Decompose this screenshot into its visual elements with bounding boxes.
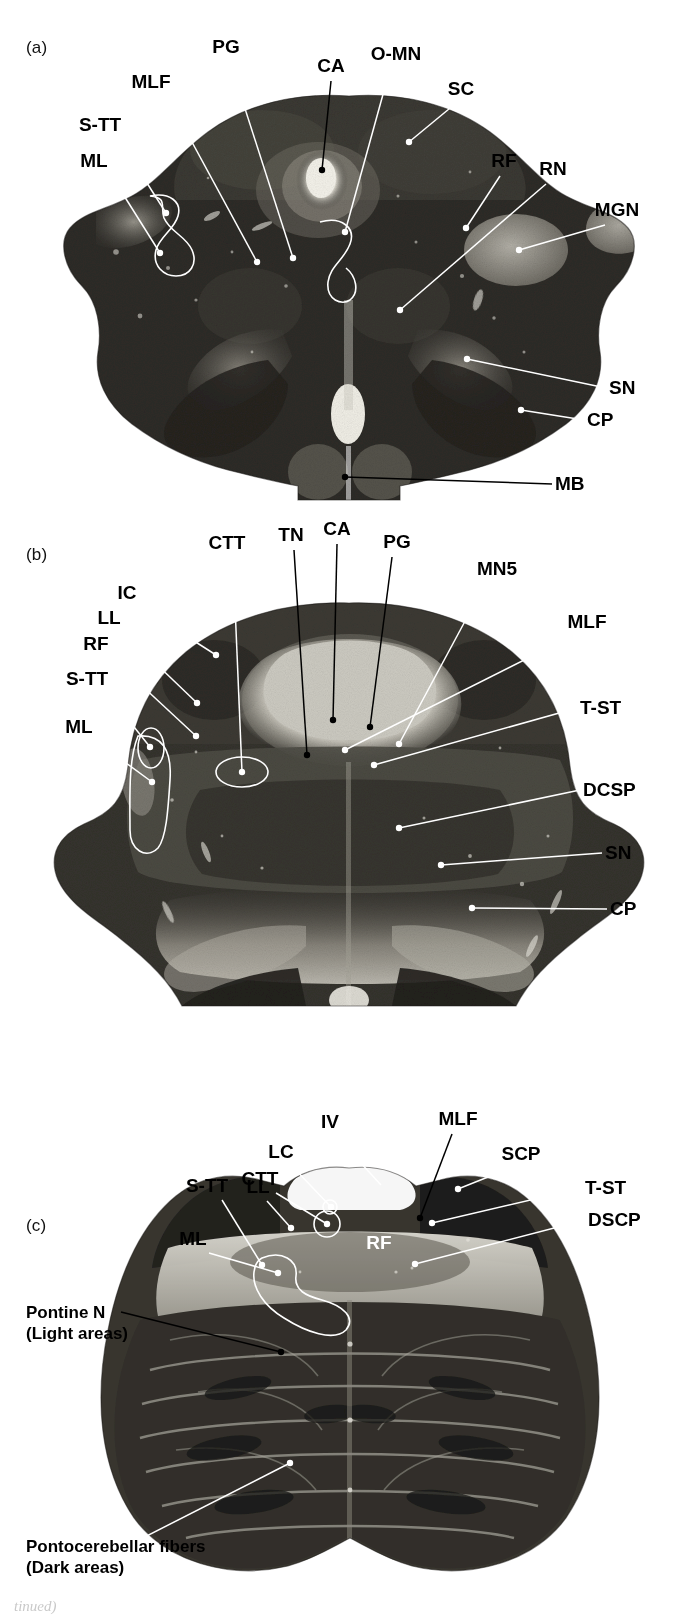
- leader-tip-ca: [319, 167, 325, 173]
- leader-line-ctt: [233, 558, 242, 772]
- leader-tip-s-tt: [147, 744, 153, 750]
- label-b-ca: CA: [323, 518, 351, 539]
- leader-tip-ca: [330, 717, 336, 723]
- label-line: Pontine N: [26, 1303, 105, 1322]
- label-c-dscp: DSCP: [588, 1209, 641, 1230]
- label-a-mlf: MLF: [131, 71, 170, 92]
- leader-tip-block-0: [278, 1349, 284, 1355]
- leader-tip-scp: [455, 1186, 461, 1192]
- label-b-rf: RF: [83, 633, 108, 654]
- leader-line-s-tt: [107, 693, 150, 747]
- leader-line-t-st: [374, 708, 577, 765]
- figure-panel-b: CTTTNCAPGMN5MLFICLLRFS-TTMLT-STDCSPSNCP …: [0, 515, 698, 1030]
- leader-line-mb: [345, 477, 552, 484]
- leader-line-ca: [322, 81, 331, 170]
- leader-line-block-0: [121, 1312, 281, 1352]
- leader-tip-t-st: [371, 762, 377, 768]
- label-c-rf: RF: [366, 1232, 391, 1253]
- leader-line-rn: [400, 184, 546, 310]
- leader-line-sc: [409, 104, 455, 142]
- leader-line-lc: [292, 1166, 331, 1207]
- label-a-mb: MB: [555, 473, 585, 494]
- label-b-s-tt: S-TT: [66, 668, 109, 689]
- label-b-dcsp: DCSP: [583, 779, 636, 800]
- leader-line-ll: [123, 632, 197, 703]
- leader-tip-tn: [304, 752, 310, 758]
- label-c-mlf: MLF: [438, 1108, 477, 1129]
- label-c-iv: IV: [321, 1111, 339, 1132]
- leader-line-rf: [466, 176, 500, 228]
- label-b-ctt: CTT: [209, 532, 246, 553]
- leader-tip-ml: [275, 1270, 281, 1276]
- label-a-s-tt: S-TT: [79, 114, 122, 135]
- leader-tip-cp: [469, 905, 475, 911]
- label-b-sn: SN: [605, 842, 631, 863]
- panel-b-letter: (b): [26, 545, 47, 565]
- leader-tip-ll: [288, 1225, 294, 1231]
- leader-tip-block-1: [287, 1460, 293, 1466]
- label-b-ic: IC: [118, 582, 137, 603]
- label-c-block-1: Pontocerebellar fibers(Dark areas): [26, 1537, 206, 1577]
- leader-line-o-mn: [345, 69, 390, 232]
- leader-line-rf: [112, 658, 196, 736]
- label-a-mgn: MGN: [595, 199, 639, 220]
- label-c-ll: LL: [246, 1176, 270, 1197]
- leader-tip-sn: [464, 356, 470, 362]
- panel-c-letter: (c): [26, 1216, 46, 1236]
- label-a-rf: RF: [491, 150, 516, 171]
- leader-line-dscp: [415, 1220, 585, 1264]
- leader-line-ic: [141, 607, 216, 655]
- leader-line-mgn: [519, 225, 605, 250]
- leader-line-tn: [294, 550, 307, 755]
- panel-b-annotations: CTTTNCAPGMN5MLFICLLRFS-TTMLT-STDCSPSNCP: [0, 515, 698, 1030]
- leader-tip-lc: [328, 1204, 334, 1210]
- leader-tip-rf: [463, 225, 469, 231]
- label-c-scp: SCP: [501, 1143, 540, 1164]
- leader-line-cp: [521, 410, 584, 420]
- leader-tip-cp: [518, 407, 524, 413]
- leader-tip-ml: [149, 779, 155, 785]
- leader-tip-pg: [367, 724, 373, 730]
- leader-line-mn5: [399, 584, 485, 744]
- label-a-ca: CA: [317, 55, 345, 76]
- label-a-sc: SC: [448, 78, 475, 99]
- leader-tip-t-st: [429, 1220, 435, 1226]
- label-b-ll: LL: [97, 607, 121, 628]
- leader-line-sn: [467, 359, 606, 388]
- label-a-pg: PG: [212, 36, 239, 57]
- leader-tip-mlf: [417, 1215, 423, 1221]
- leader-line-sn: [441, 853, 602, 865]
- figure-panel-a: PGCAO-MNSCMLFS-TTMLRFRNMGNSNCPMB (a): [0, 0, 698, 515]
- panel-c-annotations: IVMLFLCCTTSCPT-STS-TTLLDSCPMLRFPontine N…: [0, 1030, 698, 1600]
- label-c-s-tt: S-TT: [186, 1175, 229, 1196]
- leader-line-s-tt: [119, 139, 166, 213]
- leader-tip-mb: [342, 474, 348, 480]
- panel-a-letter: (a): [26, 38, 47, 58]
- leader-line-t-st: [432, 1188, 582, 1223]
- leader-line-ll: [267, 1201, 291, 1228]
- label-line: (Dark areas): [26, 1558, 124, 1577]
- label-c-block-0: Pontine N(Light areas): [26, 1303, 128, 1343]
- panel-a-annotations: PGCAO-MNSCMLFS-TTMLRFRNMGNSNCPMB: [0, 0, 698, 515]
- label-b-mlf: MLF: [567, 611, 606, 632]
- label-a-o-mn: O-MN: [371, 43, 422, 64]
- leader-tip-pg: [290, 255, 296, 261]
- label-a-sn: SN: [609, 377, 635, 398]
- label-b-mn5: MN5: [477, 558, 518, 579]
- leader-tip-mn5: [396, 741, 402, 747]
- leader-line-ml: [96, 741, 152, 782]
- label-b-pg: PG: [383, 531, 410, 552]
- figure-panel-c: IVMLFLCCTTSCPT-STS-TTLLDSCPMLRFPontine N…: [0, 1030, 698, 1600]
- label-b-cp: CP: [610, 898, 637, 919]
- leader-line-ml: [209, 1253, 278, 1273]
- label-a-rn: RN: [539, 158, 566, 179]
- label-c-ml: ML: [179, 1228, 207, 1249]
- leader-line-block-1: [127, 1463, 290, 1546]
- leader-tip-rf: [193, 733, 199, 739]
- leader-line-mlf: [420, 1134, 452, 1218]
- label-c-lc: LC: [268, 1141, 294, 1162]
- leader-tip-s-tt: [163, 210, 169, 216]
- leader-line-pg: [370, 557, 392, 727]
- leader-line-ca: [333, 544, 337, 720]
- leader-tip-ic: [213, 652, 219, 658]
